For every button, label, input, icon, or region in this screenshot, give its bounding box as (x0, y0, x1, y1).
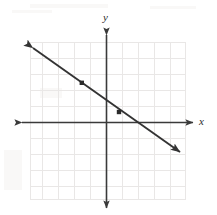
coordinate-plane-figure (0, 0, 217, 215)
y-axis-label: y (103, 12, 108, 23)
grid-lines (30, 42, 186, 200)
data-point (117, 110, 121, 114)
x-axis-label: x (199, 116, 204, 127)
data-point (80, 81, 84, 85)
